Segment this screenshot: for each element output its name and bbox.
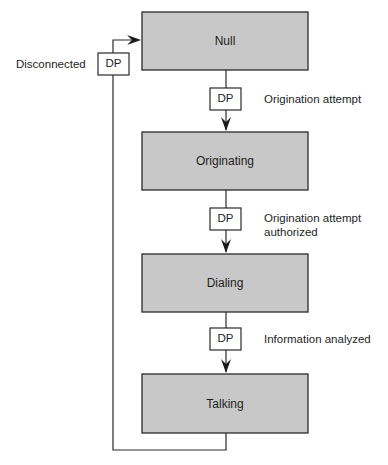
event-label-origination-attempt-authorized-line1: Origination attempt <box>264 212 361 225</box>
dp-label-4: DP <box>98 57 129 69</box>
event-label-origination-attempt-authorized-line2: authorized <box>264 226 318 239</box>
event-label-information-analyzed: Information analyzed <box>264 333 371 346</box>
event-label-disconnected: Disconnected <box>16 58 86 71</box>
dp-label-2: DP <box>210 212 241 224</box>
state-label-null: Null <box>142 34 308 48</box>
dp-label-1: DP <box>210 92 241 104</box>
state-label-dialing: Dialing <box>142 276 308 290</box>
event-label-origination-attempt: Origination attempt <box>264 93 361 106</box>
state-label-talking: Talking <box>142 397 308 411</box>
state-label-originating: Originating <box>142 154 308 168</box>
dp-label-3: DP <box>210 332 241 344</box>
